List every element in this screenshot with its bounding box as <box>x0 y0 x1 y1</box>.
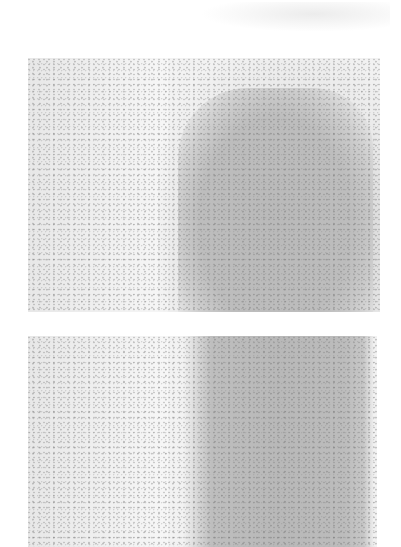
image-panel-top <box>28 58 380 312</box>
image-panel-bottom <box>28 336 377 547</box>
header-smudge <box>200 2 390 32</box>
noise-texture <box>28 58 380 312</box>
noise-texture <box>28 336 377 547</box>
